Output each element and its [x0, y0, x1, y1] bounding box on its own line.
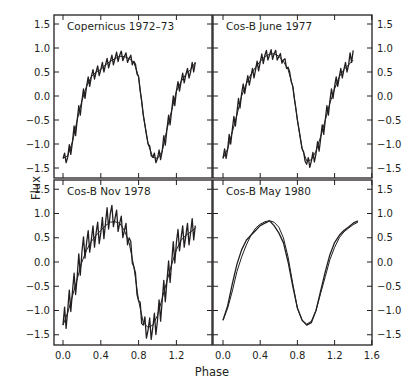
panel-top-right: −1.5−1.0−0.50.00.51.01.5Cos-B June 1977: [213, 15, 401, 178]
y-tick-label: −1.5: [26, 329, 50, 340]
panel-title: Cos-B June 1977: [226, 20, 312, 32]
panel-title: Cos-B Nov 1978: [67, 185, 151, 197]
panel-frame: [213, 15, 372, 178]
x-tick-label: 0.0: [215, 350, 231, 361]
y-tick-label: −0.5: [26, 281, 50, 292]
y-tick-label: −1.5: [377, 329, 401, 340]
y-tick-label: 1.0: [34, 43, 50, 54]
observed-curve: [223, 50, 353, 168]
panel-bottom-right: −1.5−1.0−0.50.00.51.01.50.00.40.81.21.6C…: [213, 180, 401, 361]
x-tick-label: 0.8: [289, 350, 305, 361]
y-tick-label: 0.5: [377, 67, 393, 78]
y-tick-label: 1.5: [377, 184, 393, 195]
model-curve: [63, 56, 195, 158]
y-tick-label: 0.0: [377, 91, 393, 102]
y-tick-label: −0.5: [377, 281, 401, 292]
y-tick-label: −1.0: [377, 305, 401, 316]
y-tick-label: 1.0: [377, 43, 393, 54]
x-tick-label: 0.0: [55, 350, 71, 361]
y-tick-label: 0.0: [377, 257, 393, 268]
model-curve: [223, 54, 353, 161]
y-axis-title: Flux: [29, 176, 43, 200]
y-tick-label: 1.0: [377, 208, 393, 219]
y-tick-label: 1.0: [34, 208, 50, 219]
y-tick-label: −0.5: [377, 115, 401, 126]
figure: −1.5−1.0−0.50.00.51.01.5Copernicus 1972–…: [0, 0, 411, 387]
y-tick-label: 0.5: [34, 232, 50, 243]
observed-curve: [63, 205, 195, 339]
panel-bottom-left: −1.5−1.0−0.50.00.51.01.50.00.40.81.2Cos-…: [26, 180, 212, 361]
x-tick-label: 1.2: [327, 350, 343, 361]
y-tick-label: −1.5: [26, 163, 50, 174]
panel-top-left: −1.5−1.0−0.50.00.51.01.5Copernicus 1972–…: [26, 15, 212, 178]
y-tick-label: 1.5: [377, 19, 393, 30]
y-tick-label: −1.5: [377, 163, 401, 174]
y-tick-label: 0.5: [34, 67, 50, 78]
y-tick-label: −1.0: [26, 139, 50, 150]
panel-frame: [54, 15, 212, 178]
x-tick-label: 1.6: [364, 350, 380, 361]
y-tick-label: −1.0: [377, 139, 401, 150]
y-tick-label: −1.0: [26, 305, 50, 316]
panel-title: Copernicus 1972–73: [67, 20, 174, 32]
y-tick-label: −0.5: [26, 115, 50, 126]
panel-title: Cos-B May 1980: [226, 185, 311, 197]
x-tick-label: 0.4: [93, 350, 109, 361]
y-tick-label: 0.5: [377, 232, 393, 243]
x-axis-title: Phase: [195, 365, 229, 379]
x-tick-label: 0.4: [252, 350, 268, 361]
y-tick-label: 0.0: [34, 257, 50, 268]
model-curve: [223, 221, 358, 324]
y-tick-label: 1.5: [34, 19, 50, 30]
observed-curve: [63, 51, 195, 163]
y-tick-label: 0.0: [34, 91, 50, 102]
x-tick-label: 0.8: [131, 350, 147, 361]
x-tick-label: 1.2: [168, 350, 184, 361]
